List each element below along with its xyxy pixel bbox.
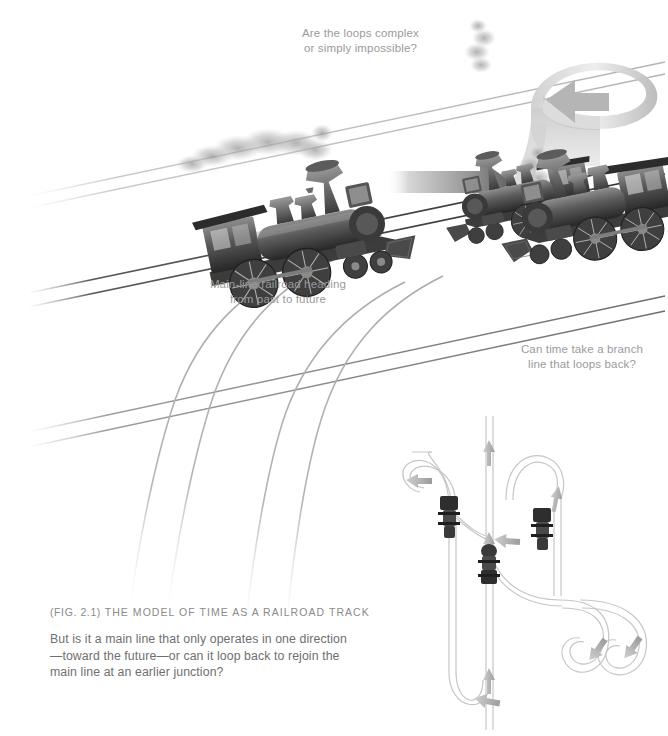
figure-title-text: The Model of Time as a Railroad Track (105, 606, 370, 618)
schematic-locomotive-left (438, 496, 460, 538)
schematic-locomotive-right (531, 508, 553, 550)
figure-title: (Fig. 2.1) The Model of Time as a Railro… (50, 606, 380, 618)
figure-caption: (Fig. 2.1) The Model of Time as a Railro… (50, 606, 380, 681)
figure-number: (Fig. 2.1) (50, 606, 101, 618)
schematic-flow-arrows (406, 440, 646, 710)
schematic-locomotive-center (478, 544, 500, 584)
schematic-rails (403, 416, 647, 730)
figure-body: But is it a main line that only operates… (50, 631, 380, 681)
